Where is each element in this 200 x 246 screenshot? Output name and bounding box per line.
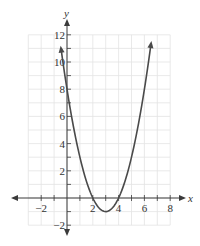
curve-arrow-left-icon [59, 46, 65, 53]
y-tick-label: 8 [60, 83, 66, 95]
x-tick-label: 6 [142, 202, 148, 214]
y-axis-arrow-up-icon [64, 19, 70, 26]
x-axis-arrow-left-icon [11, 195, 18, 201]
x-tick-label: 2 [90, 202, 96, 214]
y-axis-label: y [63, 7, 69, 19]
x-axis-arrow-right-icon [179, 195, 186, 201]
x-axis-label: x [187, 192, 193, 204]
x-tick-label: 4 [116, 202, 122, 214]
curve-arrow-right-icon [147, 41, 153, 48]
y-tick-label: 12 [54, 29, 65, 41]
x-tick-label: −2 [35, 202, 47, 214]
y-tick-label: 6 [60, 110, 66, 122]
y-tick-label: 2 [60, 165, 66, 177]
y-tick-label: 4 [60, 138, 66, 150]
parabola-chart: −22468−224681012 x y [0, 0, 200, 246]
x-tick-label: 8 [167, 202, 173, 214]
y-tick-label: −2 [53, 219, 65, 231]
